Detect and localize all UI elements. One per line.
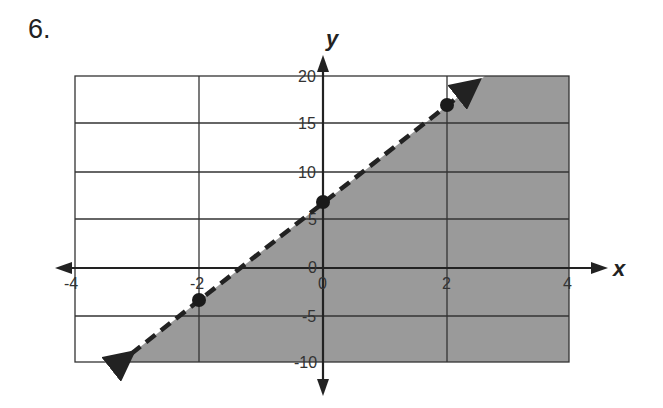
y-tick: 0 <box>308 259 317 276</box>
data-point <box>440 98 454 112</box>
y-axis-label: y <box>325 26 340 51</box>
y-tick: 10 <box>298 164 316 181</box>
x-tick: -2 <box>190 275 204 292</box>
y-tick: 15 <box>298 115 316 132</box>
x-axis-label: x <box>612 256 626 281</box>
x-tick: -4 <box>64 275 78 292</box>
y-tick: -10 <box>294 354 317 371</box>
x-tick: 4 <box>563 275 572 292</box>
x-tick: 0 <box>318 275 327 292</box>
data-point <box>192 293 206 307</box>
data-point <box>316 195 330 209</box>
y-tick: 20 <box>298 68 316 85</box>
y-tick: -5 <box>302 308 316 325</box>
inequality-graph: x y -4 -2 0 2 4 20 15 10 5 0 -5 -10 <box>0 0 663 408</box>
x-tick: 2 <box>442 275 451 292</box>
